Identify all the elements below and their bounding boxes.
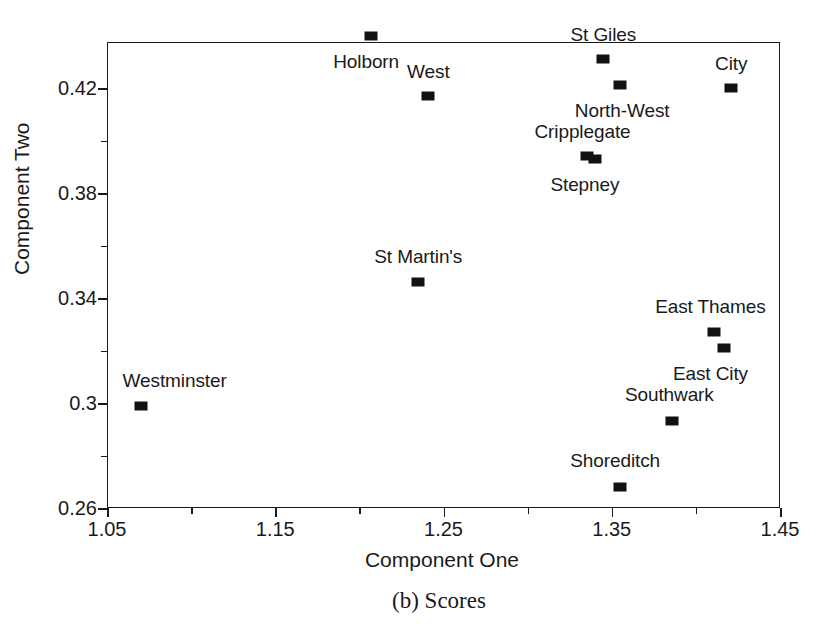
y-axis-tick-minor xyxy=(101,351,107,353)
data-point-label: St Martin's xyxy=(374,246,462,268)
y-axis-tick-major xyxy=(98,298,107,300)
data-point-marker[interactable] xyxy=(666,417,679,426)
data-point-label: Shoreditch xyxy=(570,450,660,472)
data-point-label: Holborn xyxy=(333,51,399,73)
y-axis-tick-label: 0.26 xyxy=(58,497,97,520)
x-axis-title-text: Component One xyxy=(307,548,519,571)
x-axis-tick-major xyxy=(612,508,614,517)
data-point-marker[interactable] xyxy=(597,55,610,64)
data-point-label: West xyxy=(407,61,450,83)
figure-caption-text: (b) Scores xyxy=(340,588,486,613)
x-axis-tick-label: 1.05 xyxy=(88,518,127,541)
y-axis-tick-major xyxy=(98,403,107,405)
x-axis-title: Component One xyxy=(0,548,826,572)
figure-caption: (b) Scores xyxy=(0,588,826,614)
x-axis-tick-minor xyxy=(696,508,698,514)
data-point-label: Southwark xyxy=(625,384,714,406)
data-point-label: East City xyxy=(673,363,748,385)
x-axis-tick-major xyxy=(275,508,277,517)
x-axis-tick-major xyxy=(107,508,109,517)
data-point-marker[interactable] xyxy=(365,31,378,40)
data-point-marker[interactable] xyxy=(422,91,435,100)
x-axis-tick-major xyxy=(780,508,782,517)
x-axis-tick-label: 1.25 xyxy=(424,518,463,541)
y-axis-tick-label: 0.34 xyxy=(58,287,97,310)
x-axis-tick-label: 1.15 xyxy=(256,518,295,541)
data-point-label: Stepney xyxy=(550,174,619,196)
plot-area xyxy=(107,42,780,508)
y-axis-tick-major xyxy=(98,508,107,510)
data-point-marker[interactable] xyxy=(614,81,627,90)
x-axis-tick-label: 1.35 xyxy=(592,518,631,541)
y-axis-tick-major xyxy=(98,88,107,90)
y-axis-tick-label: 0.3 xyxy=(69,392,97,415)
x-axis-tick-major xyxy=(444,508,446,517)
x-axis-tick-minor xyxy=(528,508,530,514)
data-point-marker[interactable] xyxy=(588,154,601,163)
y-axis-title: Component Two xyxy=(10,122,34,275)
x-axis-tick-label: 1.45 xyxy=(761,518,800,541)
y-axis-tick-minor xyxy=(101,246,107,248)
chart-page: Component Two 1.051.151.251.351.450.260.… xyxy=(0,0,826,642)
y-axis-tick-major xyxy=(98,193,107,195)
data-point-label: City xyxy=(715,53,747,75)
y-axis-tick-label: 0.42 xyxy=(58,77,97,100)
y-axis-tick-minor xyxy=(101,141,107,143)
data-point-label: Cripplegate xyxy=(534,121,630,143)
y-axis-tick-minor xyxy=(101,456,107,458)
data-point-marker[interactable] xyxy=(725,84,738,93)
data-point-marker[interactable] xyxy=(614,483,627,492)
data-point-marker[interactable] xyxy=(134,401,147,410)
y-axis-tick-label: 0.38 xyxy=(58,182,97,205)
data-point-label: Westminster xyxy=(123,370,227,392)
data-point-marker[interactable] xyxy=(718,343,731,352)
data-point-label: East Thames xyxy=(655,296,766,318)
data-point-label: St Giles xyxy=(570,24,636,46)
x-axis-tick-minor xyxy=(191,508,193,514)
data-point-label: North-West xyxy=(575,100,670,122)
x-axis-tick-minor xyxy=(359,508,361,514)
data-point-marker[interactable] xyxy=(708,328,721,337)
data-point-marker[interactable] xyxy=(412,278,425,287)
